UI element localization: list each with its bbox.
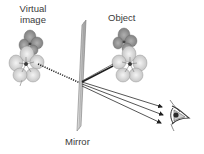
object-flower xyxy=(112,28,147,82)
mirror-diagram: Virtual image Object Mirror xyxy=(0,0,204,154)
object-label: Object xyxy=(108,12,135,23)
virtual-image-label: Virtual image xyxy=(16,3,50,25)
virtual-image-label-line2: image xyxy=(16,14,50,25)
virtual-image-label-line1: Virtual xyxy=(16,3,50,14)
mirror xyxy=(77,20,86,131)
virtual-ray-extension xyxy=(38,64,80,83)
reflected-rays xyxy=(82,82,163,123)
virtual-image-flower xyxy=(9,30,44,86)
mirror-label: Mirror xyxy=(65,136,90,147)
eye-icon xyxy=(170,100,189,131)
incident-ray xyxy=(82,66,113,82)
